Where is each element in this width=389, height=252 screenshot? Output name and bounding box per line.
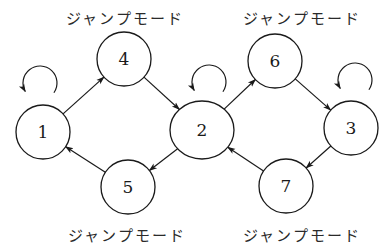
mode-label-node-7: ジャンプモード (243, 227, 361, 245)
edge-2-to-6 (224, 80, 255, 110)
self-loop-node-2 (192, 65, 226, 92)
edge-4-to-2 (144, 77, 179, 109)
self-loops-layer (23, 63, 372, 93)
node-6: 6 (248, 34, 302, 88)
self-loop-node-3 (338, 63, 372, 90)
nodes-layer: 1234567 (16, 32, 378, 214)
edge-3-to-7 (306, 146, 331, 168)
node-7: 7 (259, 159, 313, 213)
node-label-5: 5 (123, 177, 134, 197)
node-label-3: 3 (346, 118, 357, 138)
node-3: 3 (324, 101, 378, 155)
node-label-6: 6 (270, 51, 281, 71)
mode-label-node-5: ジャンプモード (68, 227, 186, 245)
node-label-7: 7 (281, 176, 292, 196)
node-4: 4 (97, 32, 151, 86)
mode-label-node-4: ジャンプモード (66, 10, 184, 28)
node-label-4: 4 (119, 49, 130, 69)
node-1: 1 (16, 105, 70, 159)
self-loop-node-1 (23, 66, 57, 93)
state-diagram: 1234567 ジャンプモード ジャンプモード ジャンプモード ジャンプモード (0, 0, 389, 252)
node-label-2: 2 (197, 120, 208, 140)
mode-label-node-6: ジャンプモード (243, 10, 361, 28)
edge-6-to-3 (295, 79, 330, 110)
node-2: 2 (170, 101, 234, 159)
edge-1-to-4 (63, 77, 104, 114)
node-label-1: 1 (38, 122, 49, 142)
edge-2-to-5 (149, 149, 177, 171)
edge-7-to-2 (228, 147, 264, 171)
edge-5-to-1 (66, 147, 106, 173)
node-5: 5 (101, 160, 155, 214)
